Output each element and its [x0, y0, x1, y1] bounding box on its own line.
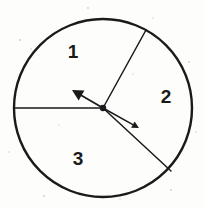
sector-label-2: 2: [161, 86, 172, 107]
spinner-figure: 123: [0, 0, 204, 208]
divider-upper-right: [103, 30, 146, 108]
spinner-diagram-screenshot: 123: [0, 0, 204, 208]
paper-speck: [132, 73, 134, 75]
paper-speck: [188, 61, 190, 63]
spinner-center-pivot: [100, 105, 106, 111]
sector-label-1: 1: [68, 41, 79, 62]
paper-speck: [58, 124, 59, 125]
spinner-sector-labels: 123: [68, 41, 172, 169]
spinner-dividers: [14, 30, 171, 171]
paper-speck: [195, 131, 197, 133]
paper-speck: [19, 39, 21, 41]
spinner-arrow-upper-left: [72, 90, 103, 108]
spinner-arrow-upper-left-shaft: [82, 96, 103, 108]
paper-speck: [8, 151, 10, 153]
paper-speck: [87, 7, 89, 9]
paper-speck: [152, 17, 154, 19]
paper-speck: [30, 48, 32, 50]
sector-label-3: 3: [73, 148, 84, 169]
paper-speck: [170, 189, 172, 191]
divider-lower-right: [103, 108, 171, 171]
paper-speck: [119, 198, 121, 200]
paper-speck: [43, 195, 45, 197]
